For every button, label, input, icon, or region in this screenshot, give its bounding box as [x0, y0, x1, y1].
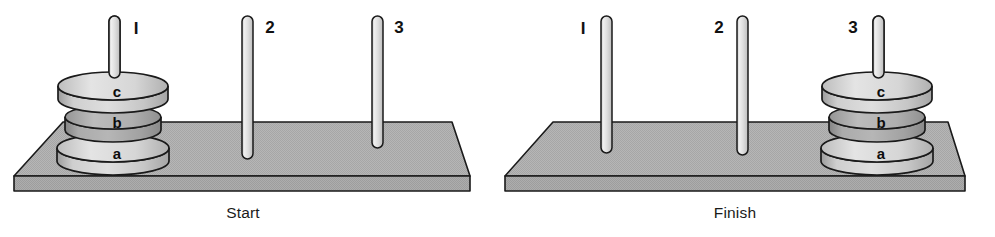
peg-label-2: 2: [265, 18, 274, 37]
peg-label-2: 2: [714, 18, 723, 37]
disk-label-b: b: [112, 114, 121, 131]
peg-rod[interactable]: [601, 16, 612, 153]
peg-1-upper-segment[interactable]: [109, 16, 120, 78]
caption-finish: Finish: [714, 204, 757, 221]
peg-label-1: I: [581, 19, 586, 38]
peg-label-1: I: [134, 19, 139, 38]
peg-rod[interactable]: [242, 16, 253, 159]
peg-label-3: 3: [848, 18, 857, 37]
disk-label-a: a: [877, 145, 886, 162]
platform-front-edge: [14, 176, 470, 191]
disk-label-b: b: [876, 114, 885, 131]
platform-front-edge: [505, 176, 965, 191]
peg-label-3: 3: [394, 18, 403, 37]
peg-rod[interactable]: [737, 16, 748, 155]
peg-3-upper-segment[interactable]: [873, 16, 884, 78]
caption-start: Start: [226, 204, 260, 221]
disk-label-c: c: [113, 83, 121, 100]
disk-label-c: c: [877, 83, 885, 100]
figure-canvas: I 2 3 a b: [0, 0, 995, 237]
disk-label-a: a: [113, 145, 122, 162]
peg-rod[interactable]: [372, 16, 383, 148]
tower-of-hanoi-figure: I 2 3 a b: [0, 0, 995, 237]
